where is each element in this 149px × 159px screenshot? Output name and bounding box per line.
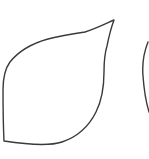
background [0, 0, 149, 159]
drawing-canvas [0, 0, 149, 159]
